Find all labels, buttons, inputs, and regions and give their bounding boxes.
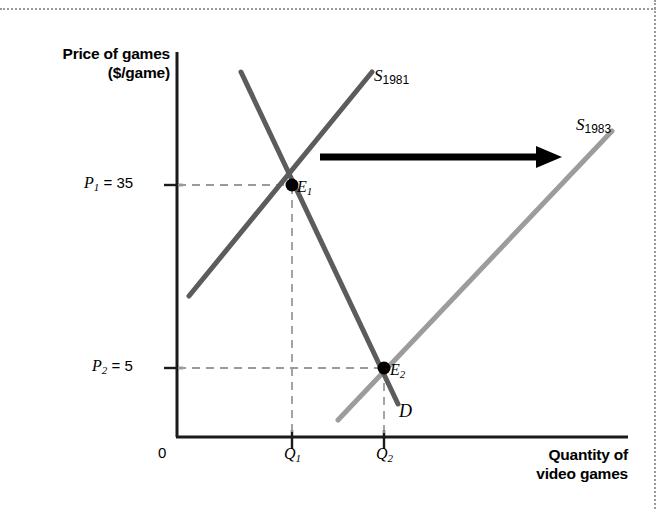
q2-symbol: Q [376,445,388,462]
demand-curve-d [241,72,398,404]
curve-label-d: D [399,401,412,422]
q1-subscript: 1 [296,452,302,464]
y-axis-title-line2: ($/game) [30,63,170,82]
supply-shift-arrow [320,146,562,168]
equilibrium-label-e1: E1 [297,178,312,197]
e1-subscript: 1 [307,185,313,197]
x-tick-label-q1: Q1 [284,445,301,464]
e2-symbol: E [390,361,400,378]
p2-equals: = [111,357,120,374]
supply-curve-s1981 [189,72,372,296]
origin-label: 0 [158,444,166,461]
e2-subscript: 2 [400,368,406,380]
s1981-symbol: S [374,66,383,85]
equilibrium-point-e2 [378,362,391,375]
q1-symbol: Q [284,445,296,462]
curve-label-s1981: S1981 [374,66,409,87]
x-axis-title-line2: video games [468,464,628,483]
supply-curve-s1983 [338,131,612,420]
y-axis-title-line1: Price of games [30,44,170,63]
e1-symbol: E [297,178,307,195]
p1-equals: = [103,174,112,191]
p2-value: 5 [124,357,132,374]
x-tick-label-q2: Q2 [376,445,393,464]
x-axis-title-line1: Quantity of [468,445,628,464]
q2-subscript: 2 [388,452,394,464]
x-axis-title: Quantity of video games [468,445,628,483]
y-tick-label-p1: P1 = 35 [84,174,133,193]
y-axis-title: Price of games ($/game) [30,44,170,82]
curve-label-s1983: S1983 [576,115,611,136]
p1-symbol: P [84,174,94,191]
equilibrium-label-e2: E2 [390,361,405,380]
p1-value: 35 [116,174,133,191]
s1983-symbol: S [576,115,585,134]
s1981-subscript: 1981 [383,73,410,87]
s1983-subscript: 1983 [585,122,612,136]
y-tick-label-p2: P2 = 5 [92,357,133,376]
supply-demand-figure: Price of games ($/game) Quantity of vide… [0,0,668,509]
p2-symbol: P [92,357,102,374]
